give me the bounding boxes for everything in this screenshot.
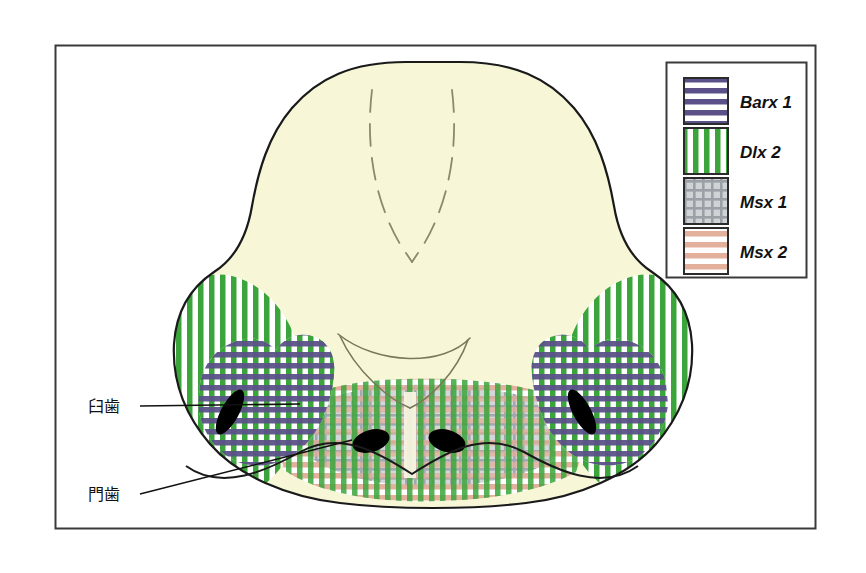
- legend-label-msx1: Msx 1: [740, 193, 787, 212]
- legend-label-msx2: Msx 2: [740, 243, 788, 262]
- legend-swatch-msx1: [684, 178, 728, 224]
- figure-canvas: 臼歯 門歯 Barx 1 Dlx 2 Msx 1 Msx 2: [0, 0, 866, 573]
- legend-swatch-barx1: [684, 78, 728, 124]
- legend-swatch-dlx2: [684, 128, 728, 174]
- diagram-svg: 臼歯 門歯 Barx 1 Dlx 2 Msx 1 Msx 2: [0, 0, 866, 573]
- midline-gap: [404, 392, 416, 478]
- legend: Barx 1 Dlx 2 Msx 1 Msx 2: [667, 63, 807, 278]
- molar-label: 臼歯: [88, 397, 120, 416]
- legend-label-dlx2: Dlx 2: [740, 143, 781, 162]
- legend-swatch-msx2: [684, 228, 728, 274]
- incisor-label: 門歯: [88, 485, 120, 504]
- legend-label-barx1: Barx 1: [740, 93, 792, 112]
